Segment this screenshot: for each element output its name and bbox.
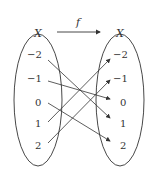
- codomain-element: 1: [120, 118, 126, 129]
- codomain-element: 0: [120, 97, 126, 108]
- domain-element: 0: [35, 97, 41, 108]
- codomain-element: −1: [113, 73, 128, 84]
- function-label: f: [75, 16, 82, 29]
- mapping-arrow: [48, 103, 110, 141]
- domain-element: 1: [35, 118, 41, 129]
- codomain-element: 2: [120, 140, 126, 151]
- codomain-set-label: X: [115, 27, 125, 40]
- domain-element: −1: [27, 73, 42, 84]
- function-mapping-diagram: X X f −2 −1 0 1 2 −2 −1 0 1 2: [0, 0, 152, 171]
- domain-set-label: X: [33, 27, 43, 40]
- codomain-element: −2: [113, 49, 128, 60]
- domain-element: 2: [35, 140, 41, 151]
- domain-element: −2: [27, 49, 42, 60]
